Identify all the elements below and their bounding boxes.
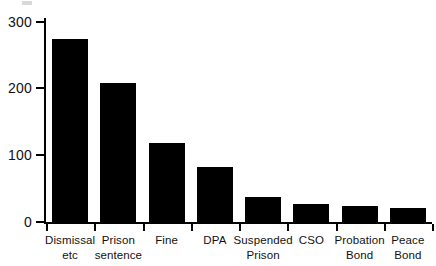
y-tick-mark-300 [36, 21, 44, 23]
x-tick-mark-3 [239, 224, 241, 231]
x-axis-ticks [0, 224, 436, 232]
x-label-line-1: Fine [155, 234, 178, 246]
y-tick-300: 300 [0, 14, 44, 30]
x-label-line-2: sentence [88, 248, 148, 263]
x-label-line-1: Prison [102, 234, 135, 246]
x-tick-mark-6 [384, 224, 386, 231]
y-tick-mark-0 [36, 221, 44, 223]
x-tick-mark-4 [287, 224, 289, 231]
y-tick-label-300: 300 [8, 14, 32, 30]
x-tick-mark-5 [336, 224, 338, 231]
y-tick-mark-100 [36, 154, 44, 156]
bar-cso [293, 204, 329, 222]
bar-dpa [197, 167, 233, 222]
y-tick-mark-200 [36, 87, 44, 89]
x-label-peace-bond: PeaceBond [378, 233, 436, 263]
y-tick-label-200: 200 [8, 80, 32, 96]
x-label-line-1: CSO [299, 234, 324, 246]
x-axis-labels: DismissaletcPrisonsentenceFineDPASuspend… [0, 233, 436, 266]
bar-probation-bond [342, 206, 378, 222]
plot-area [46, 18, 432, 222]
y-tick-200: 200 [0, 80, 44, 96]
x-label-line-2: Bond [378, 248, 436, 263]
x-tick-mark-origin [46, 224, 48, 231]
x-tick-mark-2 [191, 224, 193, 231]
y-tick-label-100: 100 [8, 147, 32, 163]
bar-dismissal-etc [52, 39, 88, 222]
bar-fine [149, 143, 185, 222]
bar-suspended-prison [245, 197, 281, 222]
y-tick-100: 100 [0, 147, 44, 163]
bar-peace-bond [390, 208, 426, 222]
x-label-line-1: DPA [203, 234, 226, 246]
bar-prison-sentence [100, 83, 136, 222]
x-tick-mark-0 [94, 224, 96, 231]
x-label-line-2: Prison [233, 248, 293, 263]
x-tick-mark-1 [143, 224, 145, 231]
bar-chart-figure: 0 100 200 300 DismissaletcPrisonsentence… [0, 0, 436, 266]
x-tick-mark-7 [432, 224, 434, 231]
x-label-line-1: Peace [391, 234, 424, 246]
